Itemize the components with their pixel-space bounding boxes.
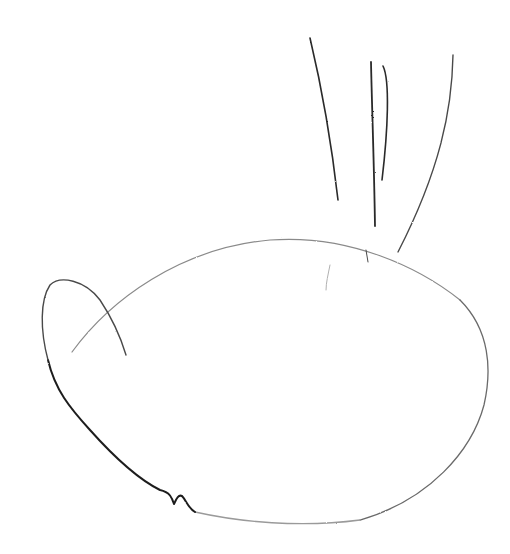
sketch-canvas (0, 0, 510, 554)
stroke-line-2 (371, 62, 375, 226)
oval-top-arc (72, 239, 460, 352)
oval-bottom (195, 512, 360, 524)
faint-mark (326, 265, 330, 290)
left-loop (42, 280, 126, 360)
stroke-line-3 (382, 66, 387, 180)
oval-bottom-dark (48, 360, 195, 512)
stroke-line-1 (310, 38, 338, 200)
oval-right-side (360, 300, 488, 520)
stroke-line-4 (398, 55, 453, 252)
